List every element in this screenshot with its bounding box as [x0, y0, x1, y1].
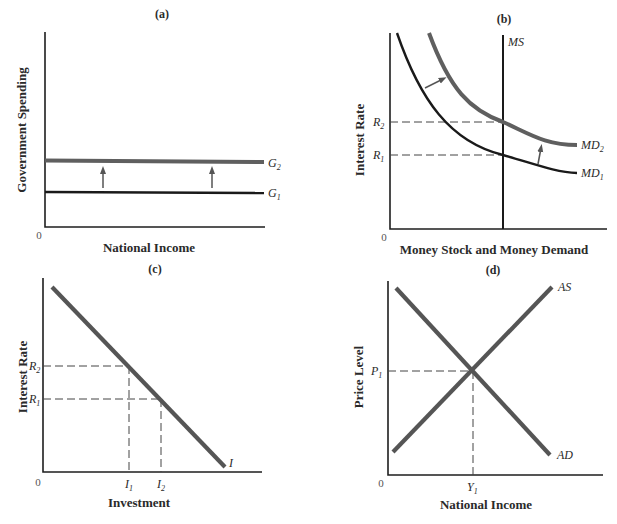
panel-c-tick-i2: I2 — [156, 477, 165, 493]
panel-d-label-as: AS — [557, 280, 571, 294]
panel-c-tick-r1: R1 — [28, 392, 40, 408]
panel-b-label-md1: MD1 — [580, 166, 604, 182]
panel-a-ylabel: Government Spending — [14, 67, 29, 193]
panel-b-curve-md1 — [397, 33, 577, 173]
panel-d-label-ad: AD — [556, 448, 573, 462]
panel-b-tick-r1: R1 — [372, 148, 384, 164]
panel-b-shift-arrow — [538, 148, 541, 164]
panel-d-origin: 0 — [378, 477, 384, 489]
panel-d-xlabel: National Income — [440, 497, 532, 512]
panel-c-ylabel: Interest Rate — [15, 341, 30, 414]
panel-b-axes — [390, 33, 607, 229]
panel-c-origin: 0 — [35, 476, 41, 488]
panel-b-ylabel: Interest Rate — [352, 104, 367, 177]
panel-b-title: (b) — [497, 12, 512, 26]
panel-a-origin: 0 — [36, 229, 42, 241]
panel-b-label-ms: MS — [507, 35, 524, 49]
panel-c-axes — [43, 278, 262, 472]
panel-d: (d) Price Level National Income 0 P1 Y1 … — [351, 263, 603, 512]
panel-c-label-i: I — [228, 456, 234, 470]
figure: (a) Government Spending National Income … — [0, 0, 617, 524]
panel-b-shift-arrow — [425, 79, 443, 88]
panel-a-title: (a) — [155, 7, 169, 21]
panel-b-tick-r2: R2 — [372, 115, 384, 131]
panel-d-tick-p1: P1 — [370, 364, 382, 380]
panel-a-xlabel: National Income — [103, 240, 195, 255]
panel-b-label-md2: MD2 — [580, 138, 604, 154]
panel-b-xlabel: Money Stock and Money Demand — [400, 242, 589, 257]
panel-a-curve-g1 — [45, 192, 264, 193]
panel-a-curve-g2 — [45, 161, 264, 163]
panel-b-origin: 0 — [381, 231, 387, 243]
panel-d-ylabel: Price Level — [351, 345, 366, 408]
panel-d-axes — [388, 281, 603, 475]
panel-a-label-g1: G1 — [268, 186, 281, 202]
panel-a: (a) Government Spending National Income … — [14, 7, 281, 255]
panel-c-tick-i1: I1 — [124, 477, 133, 493]
panel-c-xlabel: Investment — [108, 495, 171, 510]
panel-d-tick-y1: Y1 — [467, 480, 478, 496]
panel-c-curve-i — [52, 287, 225, 467]
panel-c: (c) Interest Rate Investment 0 R2 R1 I1 … — [15, 262, 262, 510]
panel-a-axes — [45, 32, 265, 227]
panel-c-tick-r2: R2 — [28, 359, 40, 375]
panel-a-label-g2: G2 — [268, 156, 281, 172]
panel-d-title: (d) — [486, 263, 501, 277]
panel-b: (b) Interest Rate Money Stock and Money … — [352, 12, 607, 257]
panel-c-title: (c) — [148, 262, 161, 276]
